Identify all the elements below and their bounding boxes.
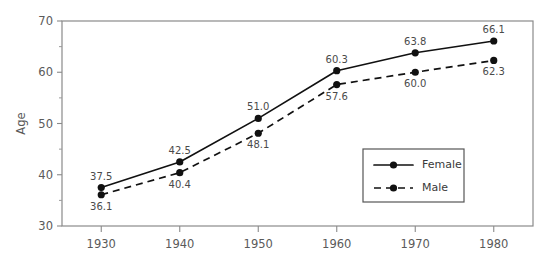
data-label-female-1980: 66.1 — [483, 24, 505, 35]
y-tick-label: 40 — [38, 168, 53, 182]
chart-container: 3040506070193019401950196019701980Age37.… — [0, 0, 555, 270]
data-label-female-1930: 37.5 — [90, 171, 112, 182]
x-tick-label: 1940 — [165, 237, 194, 251]
y-tick-label: 30 — [38, 219, 53, 233]
y-tick-label: 60 — [38, 65, 53, 79]
line-chart: 3040506070193019401950196019701980Age37.… — [0, 0, 555, 270]
data-label-male-1930: 36.1 — [90, 201, 112, 212]
legend-label-female: Female — [422, 158, 462, 171]
y-tick-label: 70 — [38, 14, 53, 28]
data-point-male-1980 — [490, 57, 497, 64]
data-point-female-1940 — [176, 158, 183, 165]
data-point-female-1980 — [490, 37, 497, 44]
data-label-male-1950: 48.1 — [247, 139, 269, 150]
data-point-male-1960 — [333, 81, 340, 88]
data-label-male-1980: 62.3 — [483, 66, 505, 77]
data-point-female-1960 — [333, 67, 340, 74]
data-label-female-1950: 51.0 — [247, 101, 269, 112]
legend-box — [363, 149, 464, 202]
data-point-female-1970 — [412, 49, 419, 56]
x-tick-label: 1960 — [322, 237, 351, 251]
data-label-male-1940: 40.4 — [169, 179, 191, 190]
data-label-female-1970: 63.8 — [404, 36, 426, 47]
data-label-female-1940: 42.5 — [169, 145, 191, 156]
x-tick-label: 1970 — [401, 237, 430, 251]
legend-marker-female — [390, 161, 397, 168]
data-point-male-1940 — [176, 169, 183, 176]
data-point-male-1950 — [255, 130, 262, 137]
x-tick-label: 1950 — [244, 237, 273, 251]
data-point-female-1950 — [255, 115, 262, 122]
data-point-female-1930 — [98, 184, 105, 191]
legend-label-male: Male — [422, 181, 448, 194]
legend-marker-male — [390, 184, 397, 191]
data-label-female-1960: 60.3 — [326, 54, 348, 65]
data-label-male-1960: 57.6 — [326, 91, 348, 102]
y-axis-title: Age — [14, 112, 28, 134]
x-tick-label: 1930 — [87, 237, 116, 251]
y-tick-label: 50 — [38, 117, 53, 131]
data-point-male-1930 — [98, 191, 105, 198]
x-tick-label: 1980 — [479, 237, 508, 251]
data-label-male-1970: 60.0 — [404, 78, 426, 89]
data-point-male-1970 — [412, 69, 419, 76]
